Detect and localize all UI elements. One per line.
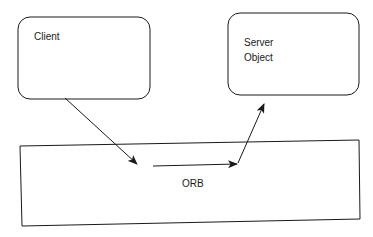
client-label: Client — [34, 31, 60, 42]
orb-diagram: Client Server Object ORB — [0, 0, 373, 237]
server-object-label-line-2: Object — [244, 52, 273, 63]
edge-orb-to-server — [238, 104, 264, 163]
server-object-node: Server Object — [228, 13, 359, 95]
server-object-label-line-1: Server — [244, 37, 274, 48]
orb-label: ORB — [182, 178, 204, 189]
edge-client-to-orb — [65, 98, 137, 164]
client-box — [18, 17, 150, 99]
client-node: Client — [18, 17, 150, 99]
orb-node: ORB — [20, 140, 360, 226]
edge-within-orb — [153, 164, 237, 166]
